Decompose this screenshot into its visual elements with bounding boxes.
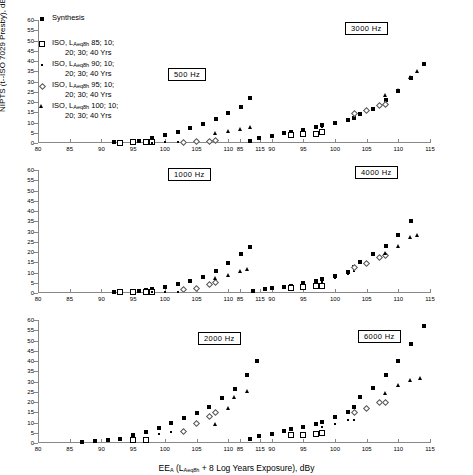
y-tick-label: 45 [20,48,34,54]
x-tick [70,439,71,443]
data-point [137,289,141,293]
y-tick-label: 50 [20,338,34,344]
y-tick-label: 50 [20,38,34,44]
data-point [333,415,337,419]
frequency-label-1000-hz: 1000 Hz [168,168,211,181]
figure-root: NIPTS (t--ISO 7029 Presby), dB Synthesis… [0,0,473,475]
data-point [408,378,412,382]
data-point [415,69,419,73]
y-tick [34,51,38,52]
data-point [288,132,294,138]
data-point [321,426,323,428]
x-tick-label: 95 [291,296,315,302]
x-tick [70,289,71,293]
data-point [371,107,375,111]
x-tick-label: 100 [153,446,177,452]
data-point [207,405,211,409]
y-tick-label: 10 [20,420,34,426]
y-tick-label: 15 [20,409,34,415]
x-tick-label: 95 [291,446,315,452]
data-point [313,131,319,137]
x-tick-label: 95 [121,296,145,302]
data-point [382,398,389,405]
data-point [334,277,336,279]
data-point [383,391,387,395]
data-point [358,395,362,399]
y-tick [34,371,38,372]
data-point [157,426,161,430]
data-point [383,251,387,255]
data-point [347,119,349,121]
x-tick [430,439,431,443]
x-tick [101,289,102,293]
x-tick [398,289,399,293]
y-tick [34,423,38,424]
y-tick-label: 55 [20,327,34,333]
y-tick-label: 45 [20,348,34,354]
y-tick-label: 30 [20,229,34,235]
y-axis-label: NIPTS (t--ISO 7029 Presby), dB [0,0,7,150]
data-point [321,281,323,283]
data-point [151,142,153,144]
y-tick [34,412,38,413]
data-point [270,286,274,290]
data-point [396,383,400,387]
y-tick-label: 10 [20,270,34,276]
data-point [214,269,218,273]
x-tick-label: 85 [58,446,82,452]
y-tick [34,170,38,171]
y-tick [34,221,38,222]
y-tick-label: 5 [20,130,34,136]
data-point [177,291,179,293]
x-tick-label: 85 [228,146,252,152]
x-tick-label: 90 [89,146,113,152]
data-point [288,432,294,438]
x-axis-label-rest: (L [174,463,184,473]
data-point [106,438,110,442]
data-point [180,428,187,435]
data-point [182,416,186,420]
data-point [408,75,412,79]
y-tick [34,61,38,62]
x-tick-label: 105 [185,296,209,302]
y-tick-label: 25 [20,239,34,245]
data-point [170,431,172,433]
y-tick [34,191,38,192]
y-tick [34,30,38,31]
data-point [418,376,422,380]
data-point [282,131,286,135]
data-point [226,406,230,410]
data-point [320,420,324,424]
x-tick [228,289,229,293]
x-tick-label: 80 [26,296,50,302]
x-axis-label-ee: EE [159,463,170,473]
data-point [195,411,199,415]
data-point [80,440,84,444]
y-tick [34,293,38,294]
x-tick [367,139,368,143]
data-point [270,134,274,138]
data-point [408,235,412,239]
data-point [346,410,350,414]
data-point [422,324,426,328]
y-tick [34,143,38,144]
data-point [409,219,413,223]
data-point [270,432,274,436]
x-tick [367,289,368,293]
y-tick [34,252,38,253]
y-tick [34,330,38,331]
data-point [112,290,116,294]
x-tick-label: 100 [323,146,347,152]
x-tick-label: 105 [185,146,209,152]
y-tick [34,41,38,42]
y-tick-label: 5 [20,280,34,286]
y-tick-label: 60 [20,317,34,323]
x-tick [303,439,304,443]
x-tick-label: 95 [121,146,145,152]
data-point [353,117,355,119]
y-tick-label: 5 [20,430,34,436]
data-point [151,291,153,293]
x-tick [165,439,166,443]
y-tick [34,102,38,103]
frequency-label-500-hz: 500 Hz [168,68,206,81]
